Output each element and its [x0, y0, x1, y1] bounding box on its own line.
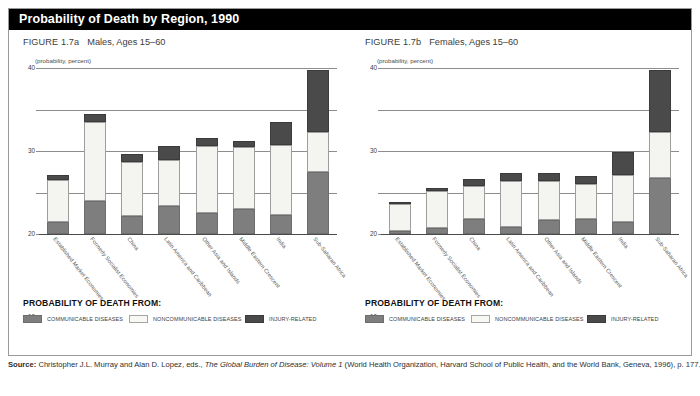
y-tick-label-20: 20: [28, 230, 35, 237]
source-book-title: The Global Burden of Disease: Volume 1: [205, 360, 343, 369]
legend-item-communicable: COMMUNICABLE DISEASES: [365, 315, 465, 323]
legend-swatch-communicable: [365, 315, 384, 323]
figure-number-b: FIGURE 1.7b: [365, 37, 421, 47]
bar-segment-com: [233, 209, 255, 234]
bar-segment-non: [158, 160, 180, 206]
legend-item-communicable: COMMUNICABLE DISEASES: [23, 315, 123, 323]
legend-label-injury: INJURY-RELATED: [269, 316, 316, 322]
legend-a: PROBABILITY OF DEATH FROM: COMMUNICABLE …: [23, 298, 341, 324]
figure-heading-b: FIGURE 1.7bFemales, Ages 15–60: [365, 37, 518, 47]
legend-b: PROBABILITY OF DEATH FROM: COMMUNICABLE …: [365, 298, 683, 324]
bar-segment-inj: [575, 176, 597, 184]
bar-segment-inj: [389, 202, 411, 204]
bar-segment-inj: [121, 154, 143, 162]
bar-segment-com: [196, 213, 218, 234]
source-label: Source:: [8, 360, 36, 369]
legend-item-noncommunicable: NONCOMMUNICABLE DISEASES: [471, 315, 584, 323]
plot-area-females: 010203040: [381, 68, 679, 234]
y-axis-unit-a: (probability, percent): [35, 57, 91, 64]
gridline-0: 0: [39, 234, 337, 235]
bar-segment-non: [121, 162, 143, 216]
bar-segment-inj: [270, 122, 292, 145]
bar-segment-inj: [233, 141, 255, 147]
bar-segment-com: [158, 206, 180, 234]
bar-segment-com: [538, 220, 560, 234]
legend-title-b: PROBABILITY OF DEATH FROM:: [365, 298, 683, 308]
page-title: Probability of Death by Region, 1990: [19, 12, 239, 26]
bar-segment-inj: [158, 146, 180, 160]
bars-females: [381, 68, 679, 234]
legend-label-communicable: COMMUNICABLE DISEASES: [389, 316, 465, 322]
y-tick-label-40: 40: [370, 64, 377, 71]
legend-label-injury: INJURY-RELATED: [611, 316, 658, 322]
source-text-before: Christopher J.L. Murray and Alan D. Lope…: [38, 360, 202, 369]
legend-items-b: COMMUNICABLE DISEASESNONCOMMUNICABLE DIS…: [365, 315, 683, 324]
x-axis-label: Other Asia and Islands: [201, 236, 241, 285]
bar-segment-com: [270, 215, 292, 234]
legend-swatch-injury: [245, 315, 264, 323]
figure-subtitle-b: Females, Ages 15–60: [429, 37, 518, 47]
bar-segment-inj: [196, 138, 218, 146]
y-tick-label-20: 20: [370, 230, 377, 237]
bar-segment-inj: [426, 188, 448, 191]
legend-label-noncommunicable: NONCOMMUNICABLE DISEASES: [153, 316, 242, 322]
figure-card: Probability of Death by Region, 1990 FIG…: [8, 8, 692, 356]
bar-segment-non: [47, 180, 69, 222]
bar-segment-com: [575, 219, 597, 234]
legend-swatch-noncommunicable: [129, 315, 148, 323]
bar-segment-inj: [649, 70, 671, 132]
legend-swatch-injury: [587, 315, 606, 323]
bar-segment-non: [270, 145, 292, 216]
bar-segment-non: [649, 132, 671, 178]
y-tick-label-30: 30: [370, 147, 377, 154]
legend-items-a: COMMUNICABLE DISEASESNONCOMMUNICABLE DIS…: [23, 315, 341, 324]
bar-segment-com: [121, 216, 143, 234]
bar-segment-inj: [612, 152, 634, 175]
x-axis-label: Middle Eastern Crescent: [238, 236, 281, 289]
title-bar: Probability of Death by Region, 1990: [9, 9, 691, 30]
bar-segment-non: [500, 181, 522, 227]
figure-page: Probability of Death by Region, 1990 FIG…: [0, 0, 700, 396]
legend-item-noncommunicable: NONCOMMUNICABLE DISEASES: [129, 315, 242, 323]
figure-heading-a: FIGURE 1.7aMales, Ages 15–60: [23, 37, 165, 47]
bar-segment-com: [84, 201, 106, 234]
source-text-after: (World Health Organization, Harvard Scho…: [345, 360, 700, 369]
plot-area-males: 010203040: [39, 68, 337, 234]
x-axis-label: Sub-Saharan Africa: [655, 236, 690, 279]
source-note: Source: Christopher J.L. Murray and Alan…: [8, 360, 692, 369]
gridline-0: 0: [381, 234, 679, 235]
bar-segment-inj: [47, 175, 69, 180]
x-axis-label: China: [468, 236, 482, 251]
y-tick-label-40: 40: [28, 64, 35, 71]
y-axis-unit-b: (probability, percent): [377, 57, 433, 64]
figure-subtitle-a: Males, Ages 15–60: [87, 37, 165, 47]
x-axis-label: Sub-Saharan Africa: [313, 236, 348, 279]
bar-segment-non: [575, 184, 597, 219]
y-tick-mark-0: [378, 234, 381, 235]
x-axis-label: Other Asia and Islands: [543, 236, 583, 285]
bar-segment-non: [307, 132, 329, 171]
bar-segment-com: [500, 227, 522, 234]
x-axis-labels-a: Established Market EconomiesFormerly Soc…: [39, 236, 337, 298]
bar-segment-com: [612, 222, 634, 234]
bar-segment-non: [426, 191, 448, 228]
chart-panel-females: FIGURE 1.7bFemales, Ages 15–60 (probabil…: [351, 30, 693, 356]
legend-item-injury: INJURY-RELATED: [245, 315, 316, 323]
legend-title-a: PROBABILITY OF DEATH FROM:: [23, 298, 341, 308]
legend-label-communicable: COMMUNICABLE DISEASES: [47, 316, 123, 322]
bar-segment-inj: [84, 114, 106, 121]
x-axis-label: India: [617, 236, 629, 249]
legend-swatch-communicable: [23, 315, 42, 323]
chart-panel-males: FIGURE 1.7aMales, Ages 15–60 (probabilit…: [9, 30, 351, 356]
bar-segment-inj: [307, 70, 329, 132]
legend-swatch-noncommunicable: [471, 315, 490, 323]
x-axis-label: India: [275, 236, 287, 249]
bar-segment-inj: [500, 173, 522, 181]
bar-segment-inj: [538, 173, 560, 180]
bar-segment-inj: [463, 179, 485, 186]
y-tick-label-30: 30: [28, 147, 35, 154]
bar-segment-com: [47, 222, 69, 234]
legend-label-noncommunicable: NONCOMMUNICABLE DISEASES: [495, 316, 584, 322]
bar-segment-non: [612, 175, 634, 223]
y-tick-mark-0: [36, 234, 39, 235]
